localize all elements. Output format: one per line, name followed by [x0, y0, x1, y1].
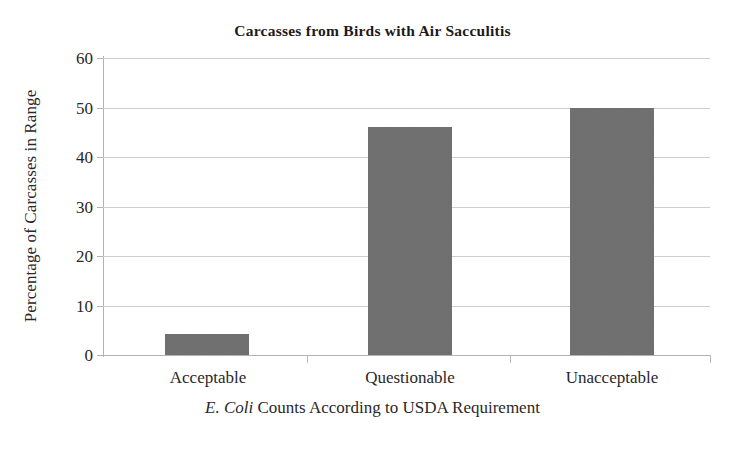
- x-tick-label-unacceptable: Unacceptable: [512, 368, 712, 388]
- x-tick-label-acceptable: Acceptable: [108, 368, 308, 388]
- y-axis-title-container: Percentage of Carcasses in Range: [18, 55, 44, 357]
- y-axis-title: Percentage of Carcasses in Range: [21, 90, 41, 323]
- y-tick-label-60: 60: [49, 50, 93, 67]
- y-axis-tick-labels: 60 50 40 30 20 10 0: [44, 0, 93, 451]
- x-tick-mark-2: [510, 355, 511, 363]
- y-tick-label-30: 30: [49, 199, 93, 216]
- y-tick-label-0: 0: [49, 347, 93, 364]
- x-axis-title-italic: E. Coli: [205, 398, 253, 417]
- bar-acceptable: [165, 334, 249, 355]
- x-tick-mark-1: [307, 355, 308, 363]
- x-tick-label-questionable: Questionable: [310, 368, 510, 388]
- bar-questionable: [368, 127, 452, 355]
- x-axis-title-rest: Counts According to USDA Requirement: [253, 398, 540, 417]
- plot-area: [103, 58, 710, 355]
- x-axis-title: E. Coli Counts According to USDA Require…: [0, 398, 745, 418]
- y-tick-label-10: 10: [49, 298, 93, 315]
- gridline-0-baseline: [103, 355, 710, 356]
- chart-title: Carcasses from Birds with Air Sacculitis: [0, 22, 745, 40]
- gridline-60: [103, 58, 710, 59]
- x-tick-mark-3: [710, 355, 711, 363]
- y-tick-label-40: 40: [49, 149, 93, 166]
- bar-unacceptable: [570, 108, 654, 356]
- bar-chart-figure: Carcasses from Birds with Air Sacculitis…: [0, 0, 745, 451]
- y-tick-label-50: 50: [49, 100, 93, 117]
- y-tick-label-20: 20: [49, 248, 93, 265]
